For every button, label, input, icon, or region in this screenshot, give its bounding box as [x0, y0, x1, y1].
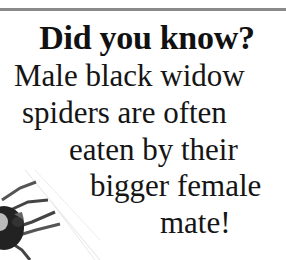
- spider-illustration-icon: [0, 170, 100, 260]
- fact-line-3: eaten by their: [69, 132, 238, 168]
- fact-line-2: spiders are often: [22, 95, 227, 131]
- fact-line-4: bigger female: [90, 168, 261, 204]
- fact-heading: Did you know?: [0, 18, 286, 58]
- top-divider: [0, 8, 286, 11]
- fact-line-5: mate!: [160, 205, 231, 241]
- fact-line-1: Male black widow: [14, 58, 245, 94]
